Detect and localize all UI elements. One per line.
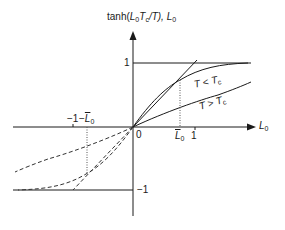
line-y-equals-L0 bbox=[133, 60, 197, 127]
line-y-equals-L0-neg bbox=[73, 127, 133, 190]
tick-label-x-neg-one: −1 bbox=[67, 114, 78, 124]
curve-T-less-Tc-neg bbox=[18, 127, 133, 190]
tick-label-x-one: 1 bbox=[191, 131, 197, 141]
x-axis-arrow-icon bbox=[247, 124, 256, 131]
neg-Lbar-sub: 0 bbox=[90, 118, 94, 125]
Lbar-sub: 0 bbox=[181, 135, 185, 142]
x-label-sub: 0 bbox=[265, 125, 269, 132]
x-axis-label: L0 bbox=[259, 121, 268, 132]
y-label-after: /T), bbox=[149, 11, 167, 22]
y-axis-label: tanh(L0Tc/T), L0 bbox=[107, 12, 176, 23]
curve-T-less-Tc bbox=[133, 63, 248, 127]
tick-label-neg-Lbar: −L0 bbox=[79, 114, 94, 125]
y-label-L2-sub: 0 bbox=[172, 16, 176, 23]
tick-label-y-neg-one: −1 bbox=[137, 185, 148, 195]
tick-label-y-one: 1 bbox=[124, 58, 130, 68]
tick-label-origin: 0 bbox=[136, 130, 142, 140]
y-label-prefix: tanh( bbox=[107, 11, 130, 22]
tick-label-Lbar: L0 bbox=[175, 131, 184, 142]
diagram-canvas bbox=[0, 0, 285, 230]
y-axis-arrow-icon bbox=[130, 31, 137, 40]
